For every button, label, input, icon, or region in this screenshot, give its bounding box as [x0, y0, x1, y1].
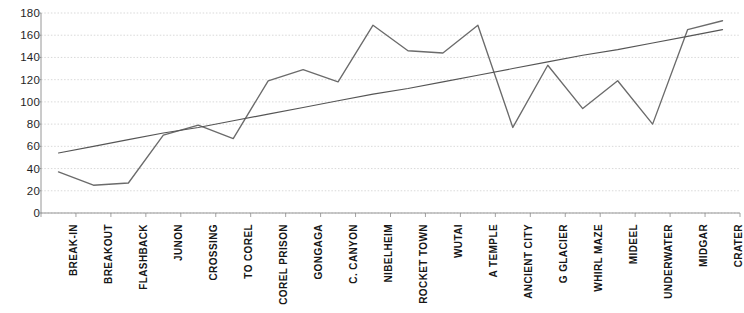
x-tick-label: COREL PRISON — [278, 224, 289, 313]
x-tick-label: G GLACIER — [558, 224, 569, 313]
data-series-line-path — [58, 21, 722, 185]
x-tick-label: TO COREL — [243, 224, 254, 313]
x-tick-label: FLASHBACK — [138, 224, 149, 313]
x-tick-label: ROCKET TOWN — [418, 224, 429, 313]
x-tick-label: MIDGAR — [698, 224, 709, 313]
x-tick-label: JUNON — [173, 224, 184, 313]
x-tick-label: UNDERWATER — [663, 224, 674, 313]
chart-container: 180160140120100806040200 BREAK-INBREAKOU… — [0, 0, 744, 313]
trendline-path — [58, 30, 722, 153]
x-tick-label: CRATER — [733, 224, 744, 313]
x-tick-label: WUTAI — [453, 224, 464, 313]
x-tick-label: C. CANYON — [348, 224, 359, 313]
x-tick-label: A TEMPLE — [488, 224, 499, 313]
x-tick-label: BREAK-IN — [68, 224, 79, 313]
trendline — [58, 30, 722, 153]
data-series-line — [58, 21, 722, 185]
x-axis-ticks — [41, 213, 740, 217]
x-tick-label: NIBELHEIM — [383, 224, 394, 313]
axis-lines — [38, 13, 741, 213]
x-tick-label: WHIRL MAZE — [593, 224, 604, 313]
x-tick-label: BREAKOUT — [103, 224, 114, 313]
x-tick-label: MIDEEL — [628, 224, 639, 313]
x-tick-label: GONGAGA — [313, 224, 324, 313]
gridlines — [41, 13, 740, 213]
x-tick-label: CROSSING — [208, 224, 219, 313]
x-tick-label: ANCIENT CITY — [523, 224, 534, 313]
